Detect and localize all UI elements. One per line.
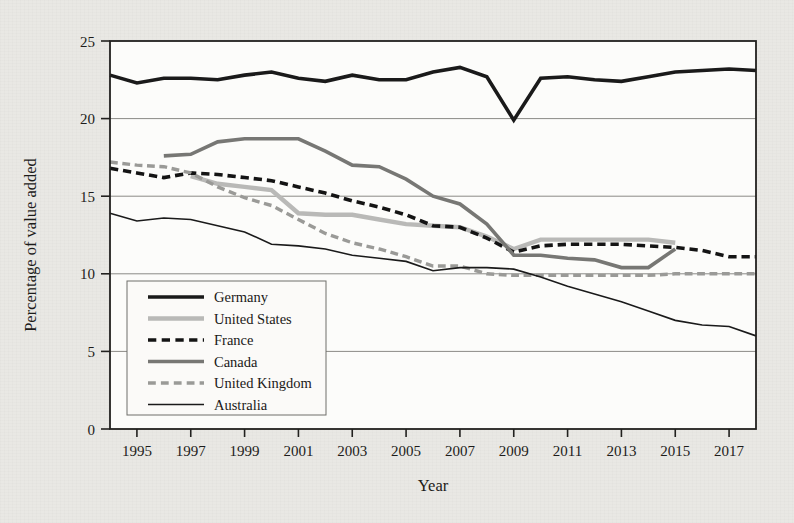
x-tick-label-2003: 2003 [337, 443, 367, 459]
y-tick-label-15: 15 [80, 189, 95, 205]
legend-label-germany: Germany [214, 289, 269, 305]
x-axis-tick-labels-group: 1995199719992001200320052007200920112013… [122, 443, 745, 459]
legend-label-france: France [214, 332, 253, 348]
x-tick-label-2009: 2009 [499, 443, 529, 459]
y-tick-label-10: 10 [80, 266, 95, 282]
x-tick-label-1995: 1995 [122, 443, 152, 459]
y-axis-ticks-group [101, 41, 110, 429]
x-tick-label-2007: 2007 [445, 443, 476, 459]
y-axis-title: Percentage of value added [21, 157, 40, 331]
x-axis-ticks-group [137, 429, 729, 437]
x-tick-label-2005: 2005 [391, 443, 421, 459]
legend-label-australia: Australia [214, 397, 268, 413]
legend-label-united-kingdom: United Kingdom [214, 375, 313, 391]
x-tick-label-1999: 1999 [230, 443, 260, 459]
x-tick-label-2001: 2001 [283, 443, 313, 459]
chart-canvas: 1995199719992001200320052007200920112013… [0, 0, 794, 523]
y-tick-label-20: 20 [80, 111, 95, 127]
x-tick-label-2011: 2011 [553, 443, 582, 459]
y-tick-label-0: 0 [88, 422, 96, 438]
x-tick-label-2015: 2015 [660, 443, 690, 459]
y-tick-label-5: 5 [88, 344, 96, 360]
x-tick-label-1997: 1997 [176, 443, 207, 459]
x-axis-title: Year [418, 476, 449, 495]
legend-label-united-states: United States [214, 311, 292, 327]
x-tick-label-2013: 2013 [606, 443, 636, 459]
x-tick-label-2017: 2017 [714, 443, 745, 459]
legend-label-canada: Canada [214, 354, 258, 370]
y-axis-tick-labels-group: 0510152025 [80, 34, 95, 438]
y-tick-label-25: 25 [80, 34, 95, 50]
line-chart-figure: 1995199719992001200320052007200920112013… [0, 0, 794, 523]
chart-legend: GermanyUnited StatesFranceCanadaUnited K… [127, 281, 326, 415]
